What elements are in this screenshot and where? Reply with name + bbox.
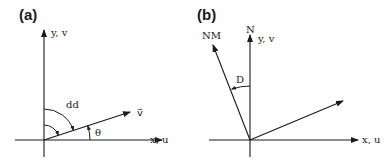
panel-b-label: (b): [197, 6, 216, 23]
theta-arc: [88, 126, 90, 140]
x-axis-label: x, u: [150, 134, 169, 145]
vector-label: v⃗: [137, 107, 143, 118]
y-axis-label: y, v: [50, 27, 68, 38]
declination-arc: [232, 86, 250, 89]
north-label: N: [246, 24, 255, 35]
theta-label: θ: [95, 127, 101, 138]
panel-a: (a) y, v x, u v⃗ dd θ: [15, 6, 169, 157]
vector-angle-diagram: (a) y, v x, u v⃗ dd θ (b) N y, v x, u NM…: [0, 0, 392, 164]
declination-label: D: [236, 74, 244, 85]
velocity-vector: [44, 112, 130, 140]
magnetic-north-line: [213, 45, 250, 140]
direction-angle-label: dd: [66, 99, 79, 110]
vector: [250, 101, 343, 140]
panel-a-label: (a): [19, 6, 37, 23]
magnetic-north-label: NM: [202, 30, 221, 41]
inner-angle-arc: [44, 125, 58, 135]
panel-b: (b) N y, v x, u NM D: [197, 6, 381, 157]
direction-angle-arc: [44, 109, 74, 131]
x-axis-label: x, u: [362, 134, 381, 145]
y-axis-label: y, v: [257, 33, 275, 44]
